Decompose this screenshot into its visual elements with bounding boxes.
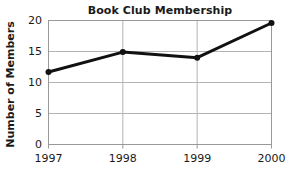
y-tick-label: 10: [18, 76, 42, 89]
x-tick-label: 1999: [173, 152, 221, 165]
y-tick-label: 5: [18, 107, 42, 120]
y-tick-label: 20: [18, 14, 42, 27]
data-line: [49, 23, 272, 72]
x-tick-label: 1997: [25, 152, 73, 165]
data-point: [120, 49, 126, 55]
chart-container: Book Club Membership Number of Members 0…: [0, 0, 300, 180]
gridlines: [49, 52, 272, 114]
y-tick-label: 15: [18, 45, 42, 58]
x-tick-label: 2000: [248, 152, 296, 165]
y-tick-label: 0: [18, 138, 42, 151]
data-point: [269, 20, 275, 26]
data-point-markers: [46, 20, 275, 75]
data-point: [46, 69, 52, 75]
data-point: [194, 55, 200, 61]
x-tick-label: 1998: [99, 152, 147, 165]
